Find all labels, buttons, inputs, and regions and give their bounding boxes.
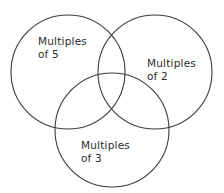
venn-diagram-canvas: Multiples of 5 Multiples of 2 Multiples … — [0, 0, 224, 193]
venn-label-multiples-of-2: Multiples of 2 — [147, 57, 196, 83]
venn-label-multiples-of-3: Multiples of 3 — [81, 139, 130, 165]
venn-circle-multiples-of-5 — [11, 15, 125, 129]
venn-label-multiples-of-5: Multiples of 5 — [38, 35, 87, 61]
venn-circle-multiples-of-3 — [55, 73, 169, 187]
